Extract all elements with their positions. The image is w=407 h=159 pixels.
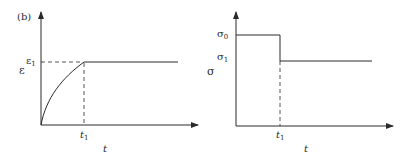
stress-curve xyxy=(236,35,372,61)
strain-y-label: ε xyxy=(19,64,25,77)
stress-plot: σ0 σ1 σ t1 t xyxy=(207,12,393,154)
strain-t1-label: t1 xyxy=(80,129,89,142)
strain-level-label: ε1 xyxy=(26,55,36,68)
stress-level0-label: σ0 xyxy=(217,28,228,41)
strain-curve xyxy=(41,62,178,125)
stress-level1-label: σ1 xyxy=(217,51,228,64)
stress-x-label: t xyxy=(304,143,309,154)
panel-label: (b) xyxy=(17,11,31,22)
strain-plot: ε ε1 t1 t xyxy=(19,12,198,154)
stress-t1-label: t1 xyxy=(276,129,285,142)
strain-x-label: t xyxy=(103,143,108,154)
stress-y-label: σ xyxy=(207,65,215,78)
figure: (b) ε ε1 t1 t σ0 σ1 σ t1 t xyxy=(0,0,407,159)
